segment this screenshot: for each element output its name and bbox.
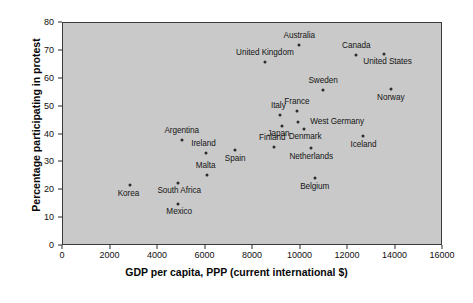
data-point-label: Mexico [166, 208, 192, 216]
data-point [355, 54, 358, 57]
data-point-label: France [284, 98, 309, 106]
data-point [177, 203, 180, 206]
x-axis-tick-label: 2000 [99, 250, 119, 260]
y-axis-tick-label: 10 [44, 212, 54, 222]
x-axis-tick [442, 245, 443, 249]
x-axis-tick-label: 8000 [242, 250, 262, 260]
y-axis-label: Percentage participating in protest [30, 15, 42, 235]
y-axis-tick-label: 30 [44, 156, 54, 166]
data-point [279, 113, 282, 116]
data-point [322, 88, 325, 91]
y-axis-tick-label: 20 [44, 184, 54, 194]
x-axis-tick [109, 245, 110, 249]
x-axis-tick [204, 245, 205, 249]
data-point [382, 52, 385, 55]
data-point-label: Sweden [308, 77, 337, 85]
data-point-label: Belgium [300, 183, 329, 191]
y-axis-tick [58, 161, 62, 162]
data-point-label: Spain [225, 155, 246, 163]
y-axis-tick-label: 70 [44, 45, 54, 55]
x-axis-tick-label: 10000 [287, 250, 312, 260]
data-point [280, 125, 283, 128]
data-point [362, 134, 365, 137]
data-point-label: United States [363, 58, 412, 66]
x-axis-label: GDP per capita, PPP (current internation… [0, 266, 473, 278]
data-point-label: South Africa [157, 187, 201, 195]
x-axis-tick [394, 245, 395, 249]
plot-area: AustraliaUnited KingdomCanadaUnited Stat… [62, 22, 442, 245]
x-axis-tick-label: 12000 [334, 250, 359, 260]
x-axis-tick-label: 0 [59, 250, 64, 260]
data-point-label: Finland [259, 134, 286, 142]
data-point-label: Iceland [350, 141, 376, 149]
data-point [205, 173, 208, 176]
y-axis-tick-label: 40 [44, 129, 54, 139]
data-point-label: Italy [271, 102, 286, 110]
x-axis-tick [252, 245, 253, 249]
y-axis-tick [58, 189, 62, 190]
y-axis-tick [58, 22, 62, 23]
data-point [128, 183, 131, 186]
y-axis-tick-label: 80 [44, 17, 54, 27]
data-point-label: Denmark [289, 133, 322, 141]
data-point [273, 146, 276, 149]
x-axis-tick [299, 245, 300, 249]
data-point [389, 87, 392, 90]
y-axis-tick [58, 77, 62, 78]
x-axis-tick-label: 4000 [147, 250, 167, 260]
data-point-label: Netherlands [289, 153, 333, 161]
data-point-label: Australia [284, 32, 315, 40]
data-point [180, 139, 183, 142]
data-point [177, 182, 180, 185]
data-point-label: Argentina [164, 127, 199, 135]
y-axis-tick-label: 50 [44, 101, 54, 111]
y-axis-tick [58, 105, 62, 106]
x-axis-tick [347, 245, 348, 249]
data-point [204, 151, 207, 154]
y-axis-tick [58, 49, 62, 50]
x-axis-tick-label: 6000 [194, 250, 214, 260]
data-point-label: Canada [342, 42, 370, 50]
x-axis-tick-label: 14000 [382, 250, 407, 260]
data-point [297, 120, 300, 123]
data-point-label: West Germany [310, 118, 364, 126]
y-axis-tick-label: 60 [44, 73, 54, 83]
data-point-label: Norway [377, 93, 404, 101]
data-point [298, 44, 301, 47]
data-point [234, 148, 237, 151]
data-point-label: Korea [118, 190, 140, 198]
x-axis-tick-label: 16000 [429, 250, 454, 260]
data-point [310, 147, 313, 150]
data-point [295, 109, 298, 112]
x-axis-tick [157, 245, 158, 249]
data-point [313, 176, 316, 179]
data-point [303, 127, 306, 130]
data-point-label: Ireland [191, 140, 216, 148]
data-point [263, 61, 266, 64]
y-axis-tick [58, 133, 62, 134]
scatter-plot-figure: Percentage participating in protest Aust… [0, 0, 473, 303]
x-axis-tick [62, 245, 63, 249]
y-axis-tick [58, 217, 62, 218]
y-axis-tick-label: 0 [49, 240, 54, 250]
data-point-label: United Kingdom [236, 49, 294, 57]
data-point-label: Malta [196, 162, 216, 170]
